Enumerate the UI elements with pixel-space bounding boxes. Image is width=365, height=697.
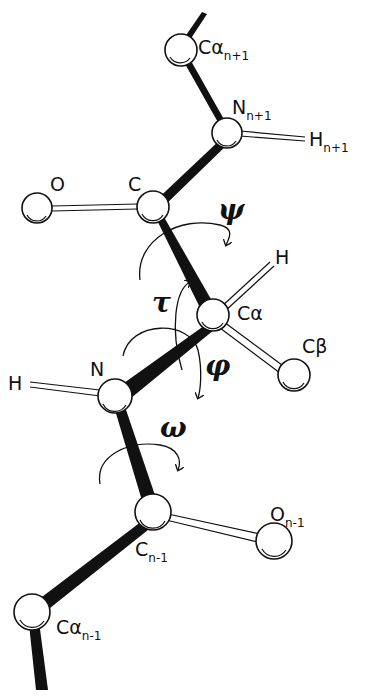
atom-ca-nm1 [14, 594, 50, 630]
phi-symbol: φ [205, 352, 230, 380]
label-n-np1: Nn+1 [232, 98, 272, 122]
omega-symbol: ω [160, 414, 187, 442]
label-c: C [128, 175, 141, 194]
label-n: N [90, 360, 104, 379]
label-c-nm1: Cn-1 [135, 540, 168, 564]
label-ca-nm1: Cαn-1 [56, 618, 101, 642]
atom-c [137, 191, 169, 223]
atom-n [98, 379, 132, 413]
peptide-diagram: Cαn+1 Nn+1 Hn+1 O C H Cα Cβ H N On-1 Cn-… [0, 0, 365, 697]
backbone-bonds [28, 12, 230, 690]
atom-c-nm1 [135, 494, 171, 530]
label-cb: Cβ [302, 337, 327, 356]
psi-symbol: ψ [218, 196, 244, 224]
atom-cb [278, 359, 310, 391]
atom-n-np1 [212, 118, 242, 148]
tau-symbol: τ [152, 289, 171, 317]
label-ca: Cα [237, 304, 263, 323]
label-h-n: H [8, 374, 22, 393]
label-o: O [50, 175, 65, 194]
label-o-nm1: On-1 [270, 505, 305, 529]
atom-ca [197, 299, 229, 331]
label-h-np1: Hn+1 [309, 130, 349, 154]
atom-ca-np1 [165, 34, 197, 66]
atom-o [22, 193, 52, 223]
label-h-ca: H [275, 248, 289, 267]
label-ca-np1: Cαn+1 [198, 38, 249, 62]
